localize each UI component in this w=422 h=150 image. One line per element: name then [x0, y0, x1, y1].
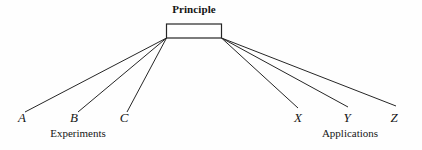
applications-group-caption: Applications	[322, 127, 378, 139]
terminal-label-c: C	[120, 110, 129, 126]
edge-principle-to-y	[222, 38, 349, 107]
principle-fan-diagram: Principle A B C X Y Z Experiments Applic…	[0, 0, 422, 150]
edge-principle-to-z	[222, 38, 397, 106]
edge-principle-to-b	[78, 38, 167, 112]
principle-node-box	[167, 24, 222, 38]
edge-principle-to-a	[25, 38, 167, 112]
edges-left	[25, 38, 167, 112]
edge-principle-to-c	[127, 38, 167, 112]
terminal-label-x: X	[294, 110, 302, 126]
terminal-label-a: A	[18, 110, 26, 126]
terminal-label-b: B	[70, 110, 78, 126]
edges-right	[222, 38, 397, 108]
terminal-label-y: Y	[343, 110, 350, 126]
terminal-label-z: Z	[390, 110, 397, 126]
principle-node-label: Principle	[166, 3, 222, 15]
experiments-group-caption: Experiments	[50, 127, 106, 139]
